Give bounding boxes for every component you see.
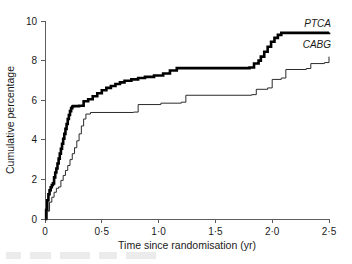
x-tick-label: 1·5: [208, 226, 223, 237]
x-tick-label: 0·5: [95, 226, 110, 237]
cumulative-percentage-chart: 00·51·01·52·02·5 0246810 PTCACABG Time s…: [0, 0, 352, 264]
chart-figure: 00·51·01·52·02·5 0246810 PTCACABG Time s…: [0, 0, 352, 264]
x-tick-label: 2·5: [322, 226, 337, 237]
y-tick-label: 4: [31, 134, 37, 145]
x-tick-label: 2·0: [265, 226, 280, 237]
y-tick-label: 6: [31, 95, 37, 106]
series-label-cabg: CABG: [303, 39, 332, 50]
y-tick-label: 2: [31, 174, 37, 185]
x-tick-label: 0: [42, 226, 48, 237]
chart-background: [0, 0, 352, 264]
x-tick-label: 1·0: [151, 226, 166, 237]
y-tick-label: 8: [31, 55, 37, 66]
series-label-ptca: PTCA: [304, 18, 331, 29]
cropped-caption-artifact: [6, 252, 156, 259]
y-axis-title: Cumulative percentage: [4, 66, 16, 174]
y-tick-label: 10: [26, 16, 38, 27]
y-tick-label: 0: [31, 214, 37, 225]
x-axis-title: Time since randomisation (yr): [118, 239, 256, 251]
